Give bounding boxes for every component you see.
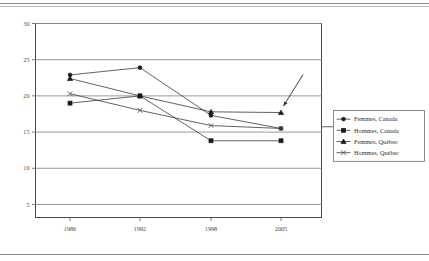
square-marker (209, 139, 213, 143)
legend-label: Hommes, Canada (354, 127, 399, 134)
chart-container: 51015202530 1986199219982005 Femmes, Can… (0, 9, 429, 252)
square-marker (279, 139, 283, 143)
series-line (70, 94, 281, 129)
x-tick-label: 1998 (205, 225, 217, 232)
top-rule-thick (0, 3, 429, 4)
legend-label: Hommes, Québec (354, 149, 399, 156)
circle-marker (138, 66, 142, 70)
x-tick-label: 2005 (275, 225, 287, 232)
square-marker (342, 128, 346, 132)
annotation-layer (284, 75, 304, 107)
x-tick-label: 1986 (64, 225, 76, 232)
y-axis-ticks: 51015202530 (23, 20, 35, 208)
legend-label: Femmes, Québec (354, 138, 398, 145)
series-triangle (67, 76, 283, 114)
triangle-marker (67, 76, 72, 80)
y-tick-label: 30 (23, 20, 29, 27)
y-tick-label: 5 (26, 201, 29, 208)
x-axis-ticks: 1986199219982005 (64, 218, 287, 232)
annotation-arrow-shaft (284, 75, 304, 107)
legend-label: Femmes, Canada (354, 115, 398, 122)
annotation-arrow-head (284, 101, 288, 106)
data-series-layer (67, 66, 283, 143)
bottom-rule (0, 254, 429, 255)
circle-marker (342, 117, 346, 121)
x-tick-label: 1992 (134, 225, 146, 232)
series-x (68, 91, 284, 131)
y-tick-label: 25 (23, 56, 29, 63)
y-tick-label: 20 (23, 92, 29, 99)
series-circle (68, 66, 283, 131)
y-tick-label: 15 (23, 128, 29, 135)
top-rule-thin (0, 6, 429, 7)
chart-page: 51015202530 1986199219982005 Femmes, Can… (0, 0, 429, 261)
square-marker (68, 101, 72, 105)
series-line (70, 68, 281, 129)
y-tick-label: 10 (23, 164, 29, 171)
line-chart: 51015202530 1986199219982005 Femmes, Can… (0, 9, 429, 252)
chart-legend: Femmes, CanadaHommes, CanadaFemmes, Québ… (322, 111, 425, 162)
